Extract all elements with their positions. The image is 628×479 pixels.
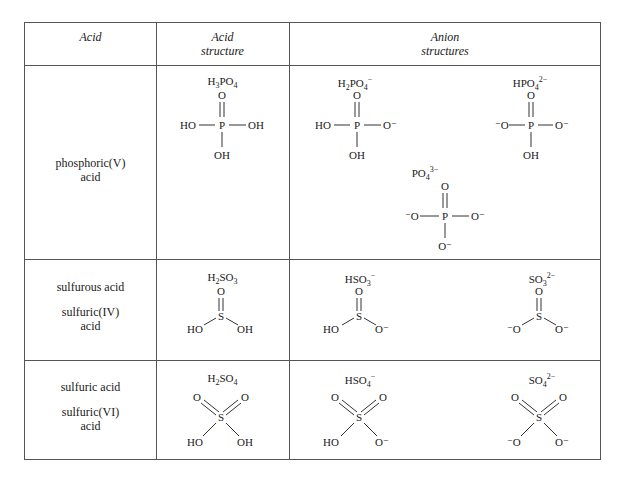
- svg-text:⁻O: ⁻O: [495, 119, 509, 131]
- header-acid-structure: Acid structure: [156, 30, 289, 58]
- structure-h2so4: O O S HO OH: [185, 388, 265, 458]
- formula-hso4: HSO4−: [335, 372, 385, 389]
- svg-text:O⁻: O⁻: [471, 210, 485, 222]
- svg-text:P: P: [354, 119, 360, 131]
- svg-text:S: S: [218, 310, 224, 322]
- svg-text:OH: OH: [214, 149, 230, 161]
- svg-text:O: O: [353, 89, 361, 101]
- svg-text:O: O: [441, 180, 449, 192]
- svg-text:O⁻: O⁻: [375, 436, 389, 448]
- svg-text:HO: HO: [323, 436, 339, 448]
- svg-text:OH: OH: [349, 149, 365, 161]
- acid-name-phosphoric: phosphoric(V) acid: [25, 156, 156, 184]
- acid-name-line2: acid: [25, 170, 156, 184]
- acid-name-line1: phosphoric(V): [25, 156, 156, 170]
- svg-text:⁻O: ⁻O: [405, 210, 419, 222]
- acid-name-line3: acid: [25, 319, 156, 333]
- svg-text:O: O: [355, 285, 363, 297]
- acid-name-line2: sulfuric(IV): [25, 305, 156, 319]
- formula-h2so4: H2SO4: [156, 372, 289, 387]
- acid-name-sulfurous: sulfurous acid sulfuric(IV) acid: [25, 280, 156, 333]
- svg-text:O: O: [511, 391, 519, 403]
- header-acid-structure-line1: Acid: [156, 30, 289, 44]
- svg-text:⁻O: ⁻O: [507, 323, 521, 335]
- svg-text:S: S: [218, 411, 224, 423]
- svg-text:S: S: [356, 310, 362, 322]
- formula-h2so3: H2SO3: [156, 271, 289, 286]
- structure-so4: O O S ⁻O O⁻: [503, 388, 583, 458]
- header-divider: [25, 65, 600, 66]
- structure-h2so3: O S HO OH: [185, 285, 265, 345]
- svg-text:P: P: [219, 119, 225, 131]
- svg-text:O⁻: O⁻: [383, 119, 397, 131]
- svg-text:O⁻: O⁻: [438, 240, 452, 252]
- structure-po4: O P ⁻O O⁻ O⁻: [405, 178, 505, 258]
- svg-text:HO: HO: [180, 119, 196, 131]
- acid-anion-table: Acid Acid structure Anion structures pho…: [24, 22, 601, 460]
- header-acid-structure-line2: structure: [156, 44, 289, 58]
- acid-name-line3: acid: [25, 419, 156, 433]
- svg-text:O: O: [193, 391, 201, 403]
- column-divider-2: [289, 23, 290, 459]
- svg-text:O: O: [379, 391, 387, 403]
- svg-text:P: P: [442, 210, 448, 222]
- structure-h3po4: O P HO OH OH: [175, 87, 275, 177]
- acid-name-line2: sulfuric(VI): [25, 405, 156, 419]
- svg-text:O⁻: O⁻: [555, 436, 569, 448]
- svg-text:⁻O: ⁻O: [507, 436, 521, 448]
- svg-text:HO: HO: [315, 119, 331, 131]
- svg-text:O⁻: O⁻: [555, 119, 569, 131]
- svg-text:P: P: [528, 119, 534, 131]
- svg-text:S: S: [356, 411, 362, 423]
- svg-text:O: O: [217, 285, 225, 297]
- header-anion-structures: Anion structures: [289, 30, 601, 58]
- svg-text:O: O: [535, 285, 543, 297]
- row-divider-2: [25, 360, 600, 361]
- svg-text:HO: HO: [187, 436, 203, 448]
- structure-hso3: O S HO O⁻: [323, 285, 403, 345]
- formula-so4: SO42−: [517, 372, 567, 389]
- svg-text:O: O: [331, 391, 339, 403]
- svg-text:OH: OH: [248, 119, 264, 131]
- header-acid-label: Acid: [80, 30, 102, 44]
- svg-text:S: S: [536, 411, 542, 423]
- acid-name-sulfuric: sulfuric acid sulfuric(VI) acid: [25, 380, 156, 433]
- acid-name-line1: sulfuric acid: [25, 380, 156, 394]
- structure-hso4: O O S HO O⁻: [323, 388, 403, 458]
- svg-text:HO: HO: [187, 323, 203, 335]
- svg-text:HO: HO: [323, 323, 339, 335]
- svg-text:O: O: [218, 89, 226, 101]
- svg-text:O: O: [527, 89, 535, 101]
- row-divider-1: [25, 259, 600, 260]
- svg-text:O: O: [559, 391, 567, 403]
- header-acid: Acid: [25, 30, 156, 44]
- structure-h2po4: O P HO O⁻ OH: [315, 87, 415, 177]
- structure-so3: O S ⁻O O⁻: [503, 285, 583, 345]
- svg-text:OH: OH: [523, 149, 539, 161]
- header-anion-line1: Anion: [289, 30, 601, 44]
- acid-name-line1: sulfurous acid: [25, 280, 156, 294]
- svg-text:O: O: [241, 391, 249, 403]
- svg-text:OH: OH: [237, 323, 253, 335]
- svg-text:O⁻: O⁻: [375, 323, 389, 335]
- svg-text:O⁻: O⁻: [555, 323, 569, 335]
- header-anion-line2: structures: [289, 44, 601, 58]
- structure-hpo4: O P ⁻O O⁻ OH: [495, 87, 595, 177]
- svg-text:OH: OH: [237, 436, 253, 448]
- svg-text:S: S: [536, 310, 542, 322]
